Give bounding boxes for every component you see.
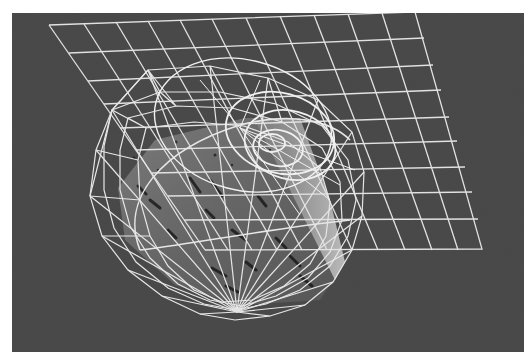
- scene-canvas: [12, 13, 524, 352]
- render-viewport[interactable]: [12, 13, 524, 352]
